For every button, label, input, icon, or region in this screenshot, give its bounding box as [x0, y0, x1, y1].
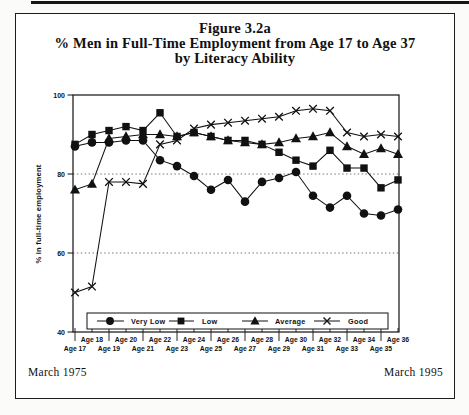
x-tick-label: Age 22: [149, 336, 172, 344]
square-marker: [326, 147, 333, 154]
series-average: [70, 127, 403, 193]
legend-label: Very Low: [131, 317, 165, 326]
circle-marker: [394, 205, 403, 214]
circle-marker: [258, 178, 267, 187]
circle-marker: [275, 174, 284, 183]
circle-marker: [156, 156, 165, 165]
triangle-marker: [155, 129, 165, 138]
square-marker: [71, 141, 78, 148]
x-tick-label: Age 36: [387, 336, 410, 344]
x-tick-label: Age 24: [183, 336, 206, 344]
legend-label: Good: [348, 317, 368, 326]
y-axis-labels: 100806040: [53, 92, 73, 336]
x-tick-label: Age 35: [370, 345, 393, 353]
x-tick-label: Age 17: [64, 345, 87, 353]
chart-gridlines: [73, 174, 399, 253]
y-axis-title: % in full-time employment: [34, 164, 43, 263]
y-tick-label: 60: [57, 250, 65, 257]
x-tick-label: Age 25: [200, 345, 223, 353]
square-marker: [309, 162, 316, 169]
series-line: [75, 140, 398, 215]
square-marker: [343, 164, 350, 171]
square-marker: [88, 131, 95, 138]
circle-marker: [360, 209, 369, 218]
circle-marker: [377, 211, 386, 220]
square-marker: [377, 184, 384, 191]
square-marker: [122, 123, 129, 130]
circle-marker: [241, 197, 250, 206]
triangle-marker: [87, 179, 97, 188]
circle-marker: [292, 168, 301, 177]
triangle-marker: [342, 141, 352, 150]
x-marker: [343, 129, 351, 137]
square-marker: [178, 318, 185, 325]
x-tick-label: Age 19: [98, 345, 121, 353]
square-marker: [105, 127, 112, 134]
x-tick-label: Age 20: [115, 336, 138, 344]
x-tick-label: Age 33: [336, 345, 359, 353]
x-tick-label: Age 21: [132, 345, 155, 353]
x-tick-label: Age 28: [251, 336, 274, 344]
square-marker: [394, 176, 401, 183]
square-marker: [275, 149, 282, 156]
document-page: Figure 3.2a % Men in Full-Time Employmen…: [0, 0, 469, 415]
circle-marker: [106, 317, 114, 325]
x-tick-label: Age 18: [81, 336, 104, 344]
legend-label: Average: [275, 317, 306, 326]
triangle-marker: [325, 127, 335, 136]
x-tick-label: Age 31: [302, 345, 325, 353]
y-tick-label: 80: [57, 171, 65, 178]
circle-marker: [207, 186, 216, 195]
circle-marker: [326, 203, 335, 212]
circle-marker: [309, 191, 318, 200]
chart-legend: Very LowLowAverageGood: [87, 313, 388, 329]
square-marker: [360, 164, 367, 171]
employment-line-chart: 100806040% in full-time employmentAge 17…: [0, 0, 469, 415]
y-tick-label: 40: [57, 329, 65, 336]
x-tick-label: Age 30: [285, 336, 308, 344]
x-marker: [156, 141, 164, 149]
x-marker: [71, 289, 79, 297]
x-tick-label: Age 26: [217, 336, 240, 344]
plot-border: [73, 95, 399, 332]
circle-marker: [88, 138, 97, 147]
square-marker: [156, 109, 163, 116]
x-tick-label: Age 23: [166, 345, 189, 353]
square-marker: [292, 156, 299, 163]
triangle-marker: [376, 143, 386, 152]
x-tick-label: Age 32: [319, 336, 342, 344]
footer-date-left: March 1975: [28, 366, 87, 378]
x-tick-label: Age 27: [234, 345, 257, 353]
circle-marker: [190, 172, 199, 181]
x-tick-label: Age 29: [268, 345, 291, 353]
circle-marker: [173, 162, 182, 171]
x-tick-label: Age 34: [353, 336, 376, 344]
circle-marker: [224, 176, 233, 185]
legend-label: Low: [202, 317, 218, 326]
y-tick-label: 100: [53, 92, 65, 99]
footer-date-right: March 1995: [384, 366, 443, 378]
circle-marker: [343, 191, 352, 200]
